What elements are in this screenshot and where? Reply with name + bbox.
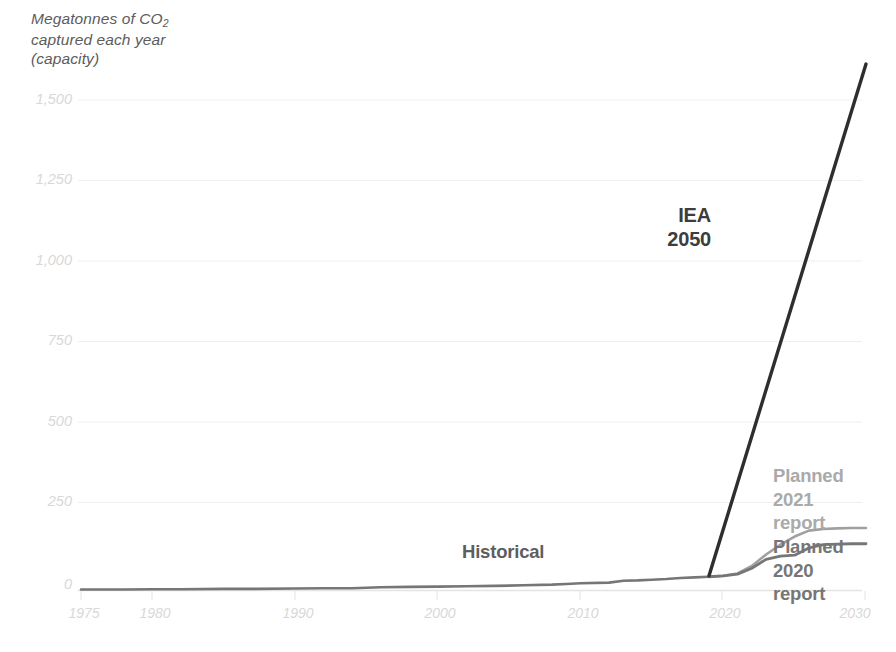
annotation-historical: Historical	[462, 541, 544, 562]
chart-plot-area: 1,500 1,250 1,000 750 500 250 0 1975 198…	[0, 0, 896, 652]
xtick-label-1980: 1980	[139, 605, 170, 621]
xtick-label-1990: 1990	[282, 605, 313, 621]
ytick-label-500: 500	[48, 413, 72, 429]
x-axis-tickmarks	[81, 591, 865, 600]
chart-container: Megatonnes of CO2 captured each year (ca…	[0, 0, 896, 652]
annotation-planned-2020-report: Planned 2020 report	[773, 535, 844, 606]
xtick-label-1975: 1975	[68, 605, 99, 621]
ytick-label-1000: 1,000	[36, 252, 72, 268]
gridlines	[78, 100, 862, 503]
ytick-label-250: 250	[47, 493, 72, 509]
ytick-label-0: 0	[64, 576, 72, 592]
series-line-historical	[81, 577, 709, 590]
xtick-label-2010: 2010	[566, 605, 598, 621]
xtick-label-2000: 2000	[423, 605, 455, 621]
data-series-layer	[81, 64, 866, 589]
xtick-label-2030: 2030	[838, 605, 870, 621]
ytick-label-750: 750	[48, 332, 72, 348]
annotation-planned-2021-report: Planned 2021 report	[773, 464, 844, 535]
x-axis-tick-labels: 1975 1980 1990 2000 2010 2020 2030	[68, 605, 870, 621]
ytick-label-1250: 1,250	[36, 171, 72, 187]
y-axis-tick-labels: 1,500 1,250 1,000 750 500 250 0	[36, 91, 72, 592]
ytick-label-1500: 1,500	[36, 91, 72, 107]
xtick-label-2020: 2020	[708, 605, 740, 621]
annotation-iea-2050: IEA 2050	[604, 203, 711, 251]
